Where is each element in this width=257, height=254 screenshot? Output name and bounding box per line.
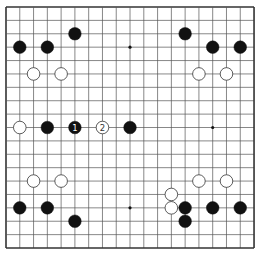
white-stone[interactable] — [55, 175, 68, 188]
white-stone[interactable]: 2 — [96, 121, 109, 134]
black-stone[interactable] — [234, 202, 247, 215]
go-board-grid[interactable]: 12 — [0, 0, 257, 254]
white-stone[interactable] — [165, 188, 178, 201]
move-number-label: 2 — [100, 123, 105, 133]
black-stone[interactable] — [234, 41, 247, 54]
white-stone[interactable] — [27, 175, 40, 188]
black-stone[interactable] — [206, 41, 219, 54]
black-stone[interactable] — [41, 121, 54, 134]
white-stone[interactable] — [193, 68, 206, 81]
black-stone[interactable] — [41, 202, 54, 215]
star-point — [128, 206, 131, 209]
star-point — [128, 46, 131, 49]
white-stone[interactable] — [55, 68, 68, 81]
black-stone[interactable] — [179, 202, 192, 215]
white-stone[interactable] — [220, 68, 233, 81]
go-board[interactable]: 12 — [0, 0, 257, 254]
black-stone[interactable] — [69, 215, 82, 228]
black-stone[interactable] — [13, 41, 26, 54]
white-stone[interactable] — [27, 68, 40, 81]
star-point — [211, 126, 214, 129]
black-stone[interactable] — [41, 41, 54, 54]
white-stone[interactable] — [220, 175, 233, 188]
black-stone[interactable] — [206, 202, 219, 215]
black-stone[interactable] — [124, 121, 137, 134]
black-stone[interactable] — [179, 27, 192, 40]
black-stone[interactable] — [179, 215, 192, 228]
black-stone[interactable]: 1 — [69, 121, 82, 134]
white-stone[interactable] — [13, 121, 26, 134]
black-stone[interactable] — [13, 202, 26, 215]
white-stone[interactable] — [165, 202, 178, 215]
black-stone[interactable] — [69, 27, 82, 40]
white-stone[interactable] — [193, 175, 206, 188]
move-number-label: 1 — [72, 123, 77, 133]
